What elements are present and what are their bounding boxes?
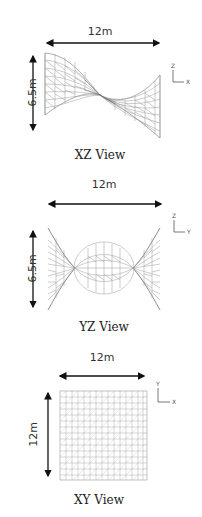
xy-axis-vertical-label: Y xyxy=(155,380,160,387)
xy-axis-horizontal-label: X xyxy=(172,398,176,405)
xy-axis-indicator-icon: Y X xyxy=(0,0,202,517)
xy-view-caption: XY View xyxy=(59,493,139,507)
